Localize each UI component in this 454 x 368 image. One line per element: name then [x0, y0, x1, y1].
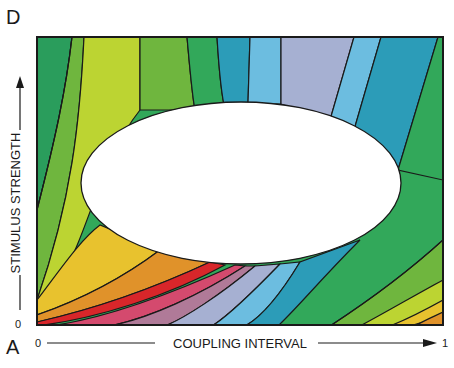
x-min-tick: 0 [35, 337, 41, 349]
arrow-right-icon [423, 339, 437, 347]
x-axis: 0 COUPLING INTERVAL 1 [35, 336, 448, 351]
contour-diagram: STIMULUS STRENGTH 0 0 COUPLING INTERVAL … [0, 0, 454, 368]
y-axis: STIMULUS STRENGTH 0 [8, 76, 24, 330]
x-max-tick: 1 [442, 337, 448, 349]
arrow-up-icon [16, 76, 24, 88]
y-min-tick: 0 [15, 318, 21, 330]
y-axis-label: STIMULUS STRENGTH [8, 133, 23, 274]
x-axis-label: COUPLING INTERVAL [173, 336, 307, 351]
undefined-region-ellipse [81, 102, 401, 264]
